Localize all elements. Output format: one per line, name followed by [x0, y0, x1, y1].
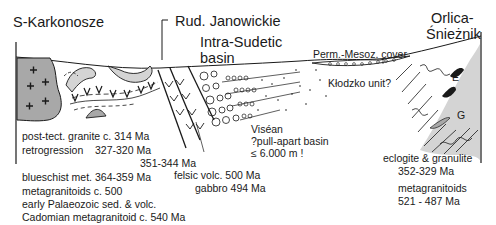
legend-351-344: 351-344 Ma — [140, 158, 196, 169]
sandstone-dots — [257, 69, 327, 111]
visean-label-1: Viséan — [251, 124, 283, 135]
legend-eclogite-granulite: eclogite & granulite — [383, 153, 472, 164]
legend-cadomian: Cadomian metagranitoid c. 540 Ma — [22, 212, 185, 223]
visean-label-3: ≤ 6.000 m ! — [251, 148, 303, 159]
region-label-intra-sudetic-2: basin — [200, 51, 235, 66]
basin-wedges — [222, 72, 300, 120]
region-label-orlica: Orlica- — [431, 11, 474, 26]
conglomerate-symbols — [200, 71, 239, 126]
region-label-rud-janowickie: Rud. Janowickie — [175, 14, 281, 29]
region-label-s-karkonosze: S-Karkonosze — [13, 15, 104, 30]
rud-janowickie-leader — [162, 20, 168, 60]
legend-felsic-volc: felsic volc. 500 Ma — [174, 170, 260, 181]
visean-label-2: ?pull-apart basin — [251, 136, 329, 147]
legend-gabbro: gabbro 494 Ma — [195, 183, 266, 194]
klodzko-label: Kłodzko unit? — [328, 78, 391, 89]
region-label-intra-sudetic-1: Intra-Sudetic — [200, 35, 282, 50]
legend-blueschist: blueschist met. 364-359 Ma — [22, 172, 151, 183]
legend-metagranitoids-right: metagranitoids — [398, 183, 467, 194]
granulite-marker: G — [457, 110, 465, 121]
eclogite-marker: E — [452, 72, 459, 83]
legend-eclogite-age: 352-329 Ma — [398, 166, 454, 177]
legend-post-tect-granite: post-tect. granite c. 314 Ma — [22, 131, 149, 142]
cover-label: Perm.-Mesoz. cover — [313, 49, 407, 60]
legend-metagranitoids: metagranitoids c. 500 — [22, 186, 122, 197]
legend-retrogression: retrogression 327-320 Ma — [22, 145, 151, 156]
legend-early-palaeozoic: early Palaeozoic sed. & volc. — [22, 199, 156, 210]
fault-lines — [158, 66, 214, 148]
granite-body — [17, 58, 61, 121]
fold-belt — [66, 66, 152, 118]
volcanic-v-marks — [72, 82, 154, 101]
legend-metagranitoids-age: 521 - 487 Ma — [398, 196, 460, 207]
orlica-gray-zone — [420, 44, 480, 160]
region-label-snieznik: Śnieżnik — [426, 27, 481, 42]
